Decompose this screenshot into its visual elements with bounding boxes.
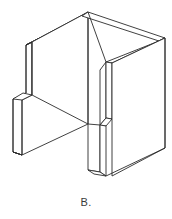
isometric-block-drawing bbox=[0, 0, 172, 219]
figure-container: B. bbox=[0, 0, 172, 219]
inner-rib-right-face bbox=[106, 62, 112, 119]
top-rim-outer-face bbox=[82, 12, 165, 41]
figure-caption: B. bbox=[0, 196, 172, 208]
inner-rib-left-face bbox=[100, 62, 106, 125]
center-leg-right-face bbox=[100, 125, 106, 176]
center-leg-left-face bbox=[88, 124, 100, 172]
lower-left-bottom-edge bbox=[22, 124, 88, 155]
left-notch-step-face bbox=[13, 93, 32, 100]
back-panel-face bbox=[32, 12, 88, 124]
